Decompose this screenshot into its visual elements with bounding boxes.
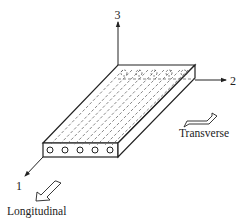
- lamina-diagram: 3 2 1: [0, 0, 246, 222]
- diagram-canvas: 3 2 1: [0, 0, 246, 222]
- axis-1-label: 1: [16, 179, 22, 193]
- transverse-label: Transverse: [179, 127, 229, 139]
- longitudinal-label: Longitudinal: [7, 205, 66, 218]
- axis-3: 3: [115, 8, 121, 65]
- axis-1: 1: [16, 157, 43, 193]
- longitudinal-arrow-icon: [36, 181, 61, 201]
- transverse-arrow-icon: [184, 113, 217, 127]
- axis-3-label: 3: [115, 8, 121, 22]
- axis-2-label: 2: [230, 74, 236, 88]
- axis-2: 2: [195, 74, 236, 88]
